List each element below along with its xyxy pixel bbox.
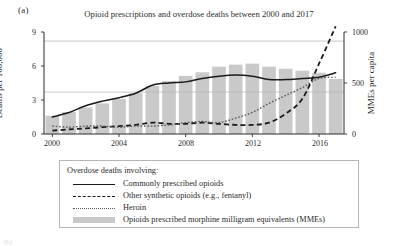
gray-bar-icon [71,215,117,225]
plot-canvas [44,32,344,134]
legend-item-label: Opioids prescribed morphine milligram eq… [123,214,325,226]
y-axis-right-tick-1000: 1000 [352,28,368,37]
legend-item-label: Commonly prescribed opioids [123,178,223,190]
dashed-line-icon [71,191,117,201]
bar [312,73,326,134]
x-axis-tick-2000: 2000 [44,139,60,148]
y-axis-right-tick-0: 0 [352,130,356,139]
y-axis-right-label: MMEs per capita [366,32,380,134]
legend-item-heroin: Heroin [67,202,352,214]
bar [162,81,176,134]
bar [262,67,276,134]
x-axis-tick-2016: 2016 [312,139,328,148]
bar [46,116,60,134]
bar [279,69,293,134]
y-axis-left-label: Deaths per 100,000 [0,32,8,134]
legend: Overdose deaths involving: Commonly pres… [59,160,359,228]
y-axis-left-tick-0: 0 [14,130,36,139]
x-axis-tick-2008: 2008 [178,139,194,148]
bar [246,64,260,134]
y-axis-left-tick-3: 3 [14,96,36,105]
chart-title: Opioid prescriptions and overdose deaths… [0,9,398,19]
bar [96,103,110,134]
solid-line-icon [71,179,117,189]
legend-title: Overdose deaths involving: [67,165,352,176]
figure-panel-a: (a) Opioid prescriptions and overdose de… [0,0,398,246]
bar [296,71,310,134]
next-panel-label: (b) [4,238,12,246]
legend-item-opioids-prescribed-mmes: Opioids prescribed morphine milligram eq… [67,214,352,226]
y-axis-right-tick-500: 500 [352,79,364,88]
legend-item-label: Heroin [123,202,146,214]
legend-item-other-synthetic-opioids: Other synthetic opioids (e.g., fentanyl) [67,190,352,202]
bar [179,76,193,134]
x-axis-tick-2012: 2012 [245,139,261,148]
bar [329,79,343,134]
bar [196,72,210,134]
bar [112,99,126,134]
dotted-line-icon [71,203,117,213]
bar [79,107,93,134]
line-commonly-prescribed-opioids [52,73,335,117]
plot-area [44,32,344,134]
bar [129,93,143,134]
x-axis-tick-2004: 2004 [111,139,127,148]
legend-item-label: Other synthetic opioids (e.g., fentanyl) [123,190,251,202]
legend-item-commonly-prescribed-opioids: Commonly prescribed opioids [67,178,352,190]
bar [62,112,76,134]
y-axis-left-tick-6: 6 [14,62,36,71]
y-axis-left-tick-9: 9 [14,28,36,37]
